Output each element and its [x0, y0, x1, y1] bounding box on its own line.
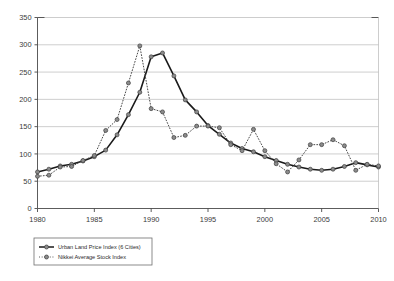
data-point — [172, 136, 176, 140]
data-point — [126, 113, 130, 117]
data-point — [342, 164, 346, 168]
data-point — [104, 128, 108, 132]
data-point — [149, 107, 153, 111]
x-tick-label-2005: 2005 — [313, 215, 329, 224]
data-point — [286, 170, 290, 174]
data-point — [172, 74, 176, 78]
data-point — [308, 167, 312, 171]
chart-container: 050100150200250300350 198019851990199520… — [0, 0, 394, 281]
data-point — [229, 143, 233, 147]
legend-item-label: Urban Land Price Index (6 Cities) — [58, 244, 141, 250]
data-point — [263, 149, 267, 153]
y-tick-label-350: 350 — [19, 13, 31, 22]
data-point — [115, 133, 119, 137]
x-tick-label-1990: 1990 — [143, 215, 159, 224]
data-point — [115, 118, 119, 122]
data-point — [297, 165, 301, 169]
data-point — [36, 174, 40, 178]
y-axis-tick-labels: 050100150200250300350 — [19, 13, 37, 213]
data-point — [354, 161, 358, 165]
chart-legend: Urban Land Price Index (6 Cities)Nikkei … — [34, 238, 152, 265]
y-tick-label-50: 50 — [23, 177, 31, 186]
x-axis-ticks — [38, 209, 379, 213]
plot-frame — [38, 18, 379, 209]
data-point — [149, 55, 153, 59]
data-point — [47, 173, 51, 177]
series-urban-land-price-index — [36, 51, 381, 174]
legend-box — [34, 238, 152, 265]
data-point — [297, 158, 301, 162]
data-point — [263, 155, 267, 159]
x-tick-label-1995: 1995 — [200, 215, 216, 224]
legend-item-label: Nikkei Average Stock Index — [58, 254, 126, 260]
data-point — [195, 110, 199, 114]
data-point — [195, 124, 199, 128]
data-series-layer — [36, 44, 381, 178]
data-point — [342, 144, 346, 148]
data-point — [217, 132, 221, 136]
data-point — [161, 110, 165, 114]
data-point — [251, 150, 255, 154]
data-point — [161, 51, 165, 55]
data-point — [206, 124, 210, 128]
data-point — [320, 168, 324, 172]
data-point — [217, 126, 221, 130]
data-point — [183, 133, 187, 137]
line-chart: 050100150200250300350 198019851990199520… — [0, 0, 394, 281]
data-point — [183, 98, 187, 102]
y-tick-label-250: 250 — [19, 68, 31, 77]
y-tick-label-200: 200 — [19, 95, 31, 104]
data-point — [138, 90, 142, 94]
x-axis-tick-labels: 1980198519901995200020052010 — [29, 215, 386, 224]
data-point — [286, 162, 290, 166]
data-point — [58, 165, 62, 169]
series-nikkei-average-stock-index — [36, 44, 381, 178]
legend-marker-swatch — [45, 245, 49, 249]
data-point — [92, 154, 96, 158]
y-tick-label-100: 100 — [19, 150, 31, 159]
data-point — [70, 164, 74, 168]
data-point — [104, 148, 108, 152]
data-point — [251, 127, 255, 131]
series-line — [38, 46, 379, 176]
y-tick-label-150: 150 — [19, 122, 31, 131]
data-point — [365, 162, 369, 166]
data-point — [331, 138, 335, 142]
data-point — [308, 143, 312, 147]
y-tick-label-0: 0 — [27, 204, 31, 213]
data-point — [36, 170, 40, 174]
gridlines — [38, 18, 379, 182]
x-tick-label-2010: 2010 — [370, 215, 386, 224]
x-tick-label-1980: 1980 — [29, 215, 45, 224]
data-point — [274, 162, 278, 166]
data-point — [354, 168, 358, 172]
y-tick-label-300: 300 — [19, 40, 31, 49]
data-point — [331, 167, 335, 171]
data-point — [81, 158, 85, 162]
data-point — [377, 164, 381, 168]
data-point — [138, 44, 142, 48]
x-tick-label-1985: 1985 — [86, 215, 102, 224]
legend-marker-swatch — [45, 255, 49, 259]
x-tick-label-2000: 2000 — [257, 215, 273, 224]
data-point — [47, 167, 51, 171]
data-point — [240, 149, 244, 153]
data-point — [320, 143, 324, 147]
data-point — [126, 81, 130, 85]
